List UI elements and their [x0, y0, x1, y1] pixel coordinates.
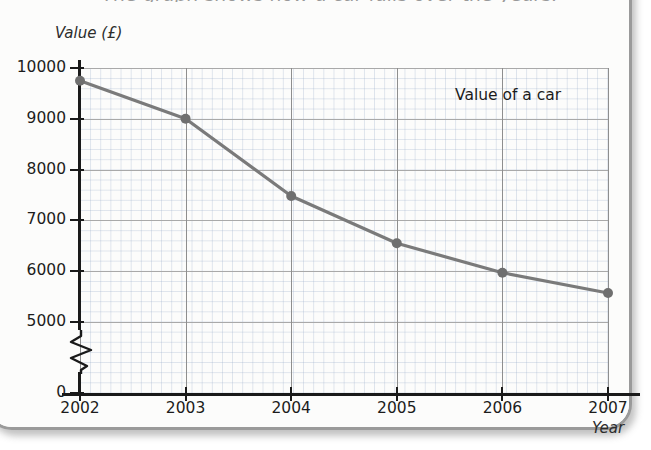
x-axis-tick-label: 2006 [467, 401, 537, 417]
y-axis-tick-label: 10000 [0, 60, 66, 76]
y-axis-tick-label: 5000 [0, 314, 66, 330]
x-axis-tick-label: 2002 [45, 401, 115, 417]
x-axis-tick-label: 2004 [256, 401, 326, 417]
x-axis-title: Year [592, 419, 624, 437]
major-vertical-gridlines [80, 68, 608, 394]
y-axis-tick [70, 270, 84, 272]
x-axis-tick-label: 2003 [151, 401, 221, 417]
plot-area [80, 68, 608, 394]
y-axis-tick [70, 67, 84, 69]
y-axis-tick [70, 169, 84, 171]
gridline-vertical [502, 68, 503, 394]
y-axis-tick [70, 392, 84, 394]
gridline-vertical [186, 68, 187, 394]
y-axis-tick-label: 7000 [0, 212, 66, 228]
gridline-vertical [291, 68, 292, 394]
y-axis-line [78, 60, 81, 330]
y-axis-tick-label: 8000 [0, 162, 66, 178]
y-axis-tick-label: 9000 [0, 111, 66, 127]
axis-break-zigzag-icon [65, 330, 97, 374]
series-annotation-label: Value of a car [455, 86, 561, 104]
chart-title: The graph shows how a car falls over the… [60, 0, 600, 2]
y-axis-tick [70, 219, 84, 221]
y-axis-tick-label: 6000 [0, 263, 66, 279]
gridline-vertical [397, 68, 398, 394]
y-axis-tick [70, 118, 84, 120]
x-axis-tick-label: 2005 [362, 401, 432, 417]
y-axis-tick-label: 0 [0, 385, 66, 401]
y-axis-title: Value (£) [55, 24, 122, 42]
gridline-vertical [608, 68, 609, 394]
x-axis-line [62, 393, 640, 396]
y-axis-tick [70, 321, 84, 323]
x-axis-tick-label: 2007 [573, 401, 643, 417]
